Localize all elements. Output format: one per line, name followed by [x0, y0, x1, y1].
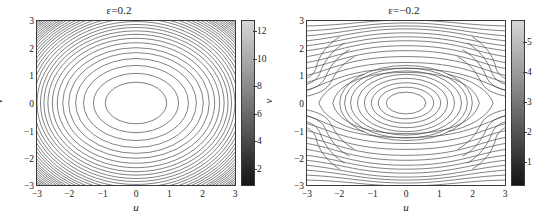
- y-tick: 0: [282, 99, 304, 109]
- contour-lines-right: [307, 21, 505, 185]
- contour-plot-right: [307, 21, 505, 185]
- contour-plot-left: [37, 21, 235, 185]
- x-tick: 1: [156, 189, 182, 199]
- panel-title-left: ε=0.2: [0, 4, 238, 16]
- y-axis-label-left: v: [0, 99, 4, 104]
- x-axis-label-left: u: [36, 201, 236, 213]
- x-tick: −1: [360, 189, 386, 199]
- y-tick: −2: [12, 154, 34, 164]
- panel-title-right: ε=−0.2: [298, 4, 510, 16]
- y-tick: −1: [282, 127, 304, 137]
- panel-epsilon-negative: ε=−0.2: [272, 0, 544, 222]
- colorbar-ticks-right: 5 4 3 2 1: [527, 20, 544, 186]
- y-axis-ticks-left: 3 2 1 0 −1 −2 −3: [8, 20, 34, 186]
- panel-epsilon-positive: ε=0.2: [0, 0, 272, 222]
- x-tick: −3: [294, 189, 320, 199]
- x-tick: 3: [222, 189, 248, 199]
- y-tick: 2: [282, 44, 304, 54]
- plot-area-left: [36, 20, 236, 186]
- y-tick: 0: [12, 99, 34, 109]
- x-tick: 0: [123, 189, 149, 199]
- y-tick: 1: [282, 71, 304, 81]
- x-tick: 0: [393, 189, 419, 199]
- y-tick: −2: [282, 154, 304, 164]
- colorbar-tick: 4: [527, 67, 544, 77]
- x-tick: 3: [492, 189, 518, 199]
- x-tick: 2: [460, 189, 486, 199]
- x-tick: −2: [326, 189, 352, 199]
- colorbar-tick: 3: [527, 97, 544, 107]
- colorbar-tick: 2: [527, 127, 544, 137]
- x-tick: −1: [90, 189, 116, 199]
- y-tick: 1: [12, 71, 34, 81]
- contour-figure: ε=0.2: [0, 0, 544, 222]
- colorbar-tick: 5: [527, 37, 544, 47]
- x-tick: 2: [190, 189, 216, 199]
- colorbar-tick: 1: [527, 157, 544, 167]
- y-axis-label-right: v: [262, 99, 274, 104]
- x-tick: −2: [56, 189, 82, 199]
- x-tick: 1: [426, 189, 452, 199]
- plot-area-right: [306, 20, 506, 186]
- y-tick: 3: [12, 16, 34, 26]
- y-tick: 3: [282, 16, 304, 26]
- y-tick: −1: [12, 127, 34, 137]
- contour-lines-left: [37, 21, 235, 185]
- y-tick: 2: [12, 44, 34, 54]
- colorbar-left: [241, 20, 255, 186]
- x-tick: −3: [24, 189, 50, 199]
- y-axis-ticks-right: 3 2 1 0 −1 −2 −3: [278, 20, 304, 186]
- x-axis-label-right: u: [306, 201, 506, 213]
